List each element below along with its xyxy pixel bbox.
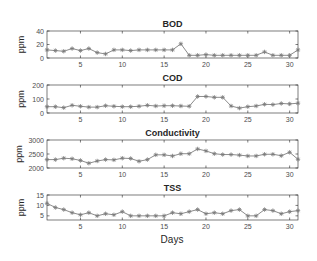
data-point	[287, 209, 291, 213]
data-point	[45, 201, 49, 205]
data-point	[103, 52, 107, 56]
data-point	[187, 152, 191, 156]
x-tick-label: 5	[79, 171, 83, 178]
x-tick-label: 25	[244, 61, 252, 68]
y-tick-label: 15	[36, 192, 44, 199]
data-point	[154, 153, 158, 157]
data-point	[296, 157, 300, 161]
data-point	[246, 154, 250, 158]
subplot-cod: COD510152025300100200ppm	[16, 73, 300, 123]
data-point	[70, 157, 74, 161]
data-point	[145, 48, 149, 52]
data-point	[95, 105, 99, 109]
data-point	[287, 102, 291, 106]
x-tick-label: 10	[118, 61, 126, 68]
data-point	[204, 149, 208, 153]
data-point	[103, 212, 107, 216]
data-point	[62, 105, 66, 109]
data-point	[128, 214, 132, 218]
subplot-title: COD	[163, 73, 184, 83]
x-tick-label: 30	[286, 223, 294, 230]
data-point	[170, 48, 174, 52]
data-point	[195, 53, 199, 57]
x-tick-label: 20	[202, 61, 210, 68]
data-point	[187, 209, 191, 213]
data-point	[296, 48, 300, 52]
data-point	[53, 105, 57, 109]
data-point	[103, 104, 107, 108]
data-point	[287, 53, 291, 57]
data-point	[145, 214, 149, 218]
data-point	[120, 48, 124, 52]
data-point	[279, 153, 283, 157]
data-point	[221, 95, 225, 99]
x-tick-label: 5	[79, 116, 83, 123]
data-point	[103, 157, 107, 161]
subplot-conductivity: Conductivity51015202530200025003000ppm	[14, 128, 300, 178]
data-point	[95, 214, 99, 218]
data-point	[128, 48, 132, 52]
figure: BOD5101520253002040ppmCOD510152025300100…	[0, 0, 317, 261]
y-tick-label: 2500	[28, 151, 44, 158]
data-point	[112, 213, 116, 217]
data-point	[179, 212, 183, 216]
data-point	[237, 207, 241, 211]
subplot-tss: TSS5101520253051015ppm	[16, 183, 300, 230]
data-point	[45, 105, 49, 109]
data-point	[195, 147, 199, 151]
data-point	[254, 214, 258, 218]
y-tick-label: 20	[36, 41, 44, 48]
data-point	[229, 152, 233, 156]
data-point	[162, 48, 166, 52]
data-point	[70, 211, 74, 215]
data-point	[212, 95, 216, 99]
data-point	[179, 104, 183, 108]
x-tick-label: 20	[202, 171, 210, 178]
x-tick-label: 15	[160, 61, 168, 68]
subplot-title: TSS	[164, 183, 182, 193]
data-point	[53, 205, 57, 209]
axes-box	[47, 195, 298, 220]
data-point	[170, 211, 174, 215]
x-tick-label: 10	[118, 223, 126, 230]
y-axis-label: ppm	[16, 36, 26, 54]
data-point	[195, 94, 199, 98]
data-point	[271, 208, 275, 212]
data-point	[212, 53, 216, 57]
data-point	[154, 214, 158, 218]
data-point	[87, 211, 91, 215]
x-tick-label: 25	[244, 171, 252, 178]
x-tick-label: 25	[244, 223, 252, 230]
data-point	[70, 103, 74, 107]
x-tick-label: 15	[160, 116, 168, 123]
data-point	[204, 212, 208, 216]
data-point	[262, 207, 266, 211]
data-point	[87, 46, 91, 50]
data-point	[120, 156, 124, 160]
x-tick-label: 10	[118, 116, 126, 123]
y-tick-label: 40	[36, 28, 44, 35]
axes-box	[47, 85, 298, 113]
data-point	[145, 103, 149, 107]
x-tick-label: 30	[286, 171, 294, 178]
data-point	[229, 104, 233, 108]
data-point	[287, 150, 291, 154]
data-point	[229, 208, 233, 212]
data-point	[212, 152, 216, 156]
data-point	[53, 157, 57, 161]
x-tick-label: 5	[79, 61, 83, 68]
y-axis-label: ppm	[14, 145, 24, 163]
data-point	[296, 101, 300, 105]
data-point	[78, 104, 82, 108]
data-point	[120, 209, 124, 213]
data-point	[246, 214, 250, 218]
y-axis-label: ppm	[16, 199, 26, 217]
data-point	[229, 53, 233, 57]
data-point	[137, 104, 141, 108]
y-tick-label: 0	[40, 110, 44, 117]
data-point	[237, 106, 241, 110]
data-point	[162, 153, 166, 157]
data-point	[62, 156, 66, 160]
data-point	[112, 158, 116, 162]
data-point	[154, 104, 158, 108]
